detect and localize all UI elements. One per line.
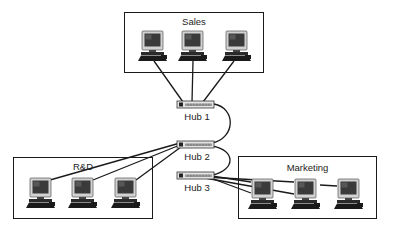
hub-2 — [177, 141, 214, 148]
computer-rnd-3 — [111, 178, 140, 208]
hub-3 — [177, 172, 214, 179]
computer-sales-1 — [138, 31, 167, 61]
computer-marketing-2 — [291, 179, 320, 209]
computer-rnd-2 — [68, 178, 97, 208]
computer-sales-2 — [178, 31, 207, 61]
hub-1 — [177, 101, 214, 108]
computer-sales-3 — [222, 31, 251, 61]
hub-label-2: Hub 2 — [177, 151, 217, 162]
hub-label-3: Hub 3 — [177, 182, 217, 193]
computer-marketing-3 — [334, 179, 363, 209]
computer-marketing-1 — [248, 179, 277, 209]
hub-label-1: Hub 1 — [177, 111, 217, 122]
computer-rnd-1 — [26, 178, 55, 208]
network-diagram: Sales R&D Marketing — [0, 0, 394, 233]
